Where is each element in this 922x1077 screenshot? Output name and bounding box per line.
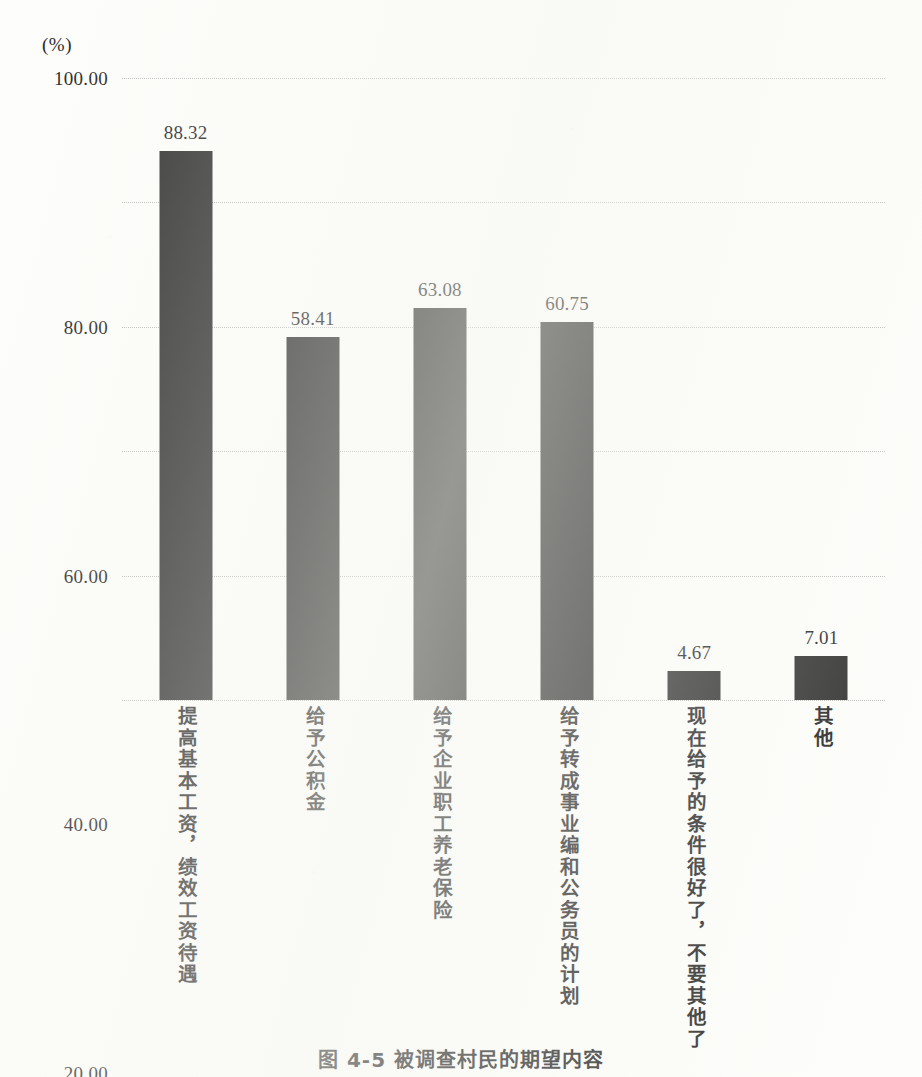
- x-axis-labels: 提高基本工资，绩效工资待遇给予公积金给予企业职工养老保险给予转成事业编和公务员的…: [122, 706, 885, 1036]
- y-axis-tick-label: 100.00: [54, 68, 108, 90]
- bar[interactable]: 88.32: [159, 151, 212, 700]
- x-axis-category-label: 其他: [758, 706, 885, 1036]
- bar-value-label: 63.08: [418, 279, 462, 301]
- bar-value-label: 58.41: [291, 308, 335, 330]
- bar-value-label: 7.01: [804, 627, 838, 649]
- bar-slot: 4.67: [631, 78, 758, 700]
- bar-chart-figure: (%) 100.0080.0060.0040.0020.00088.3258.4…: [0, 0, 922, 1077]
- x-axis-category-text: 给予公积金: [302, 706, 323, 1036]
- gridline: 0: [122, 700, 885, 701]
- bar-slot: 7.01: [758, 78, 885, 700]
- bar-value-label: 4.67: [677, 642, 711, 664]
- x-axis-category-label: 给予企业职工养老保险: [376, 706, 503, 1036]
- x-axis-category-text: 给予转成事业编和公务员的计划: [557, 706, 578, 1036]
- bar[interactable]: 60.75: [541, 322, 594, 700]
- x-axis-category-text: 其他: [811, 706, 832, 1036]
- figure-caption: 图 4-5 被调查村民的期望内容: [0, 1044, 922, 1073]
- bar[interactable]: 7.01: [795, 656, 848, 700]
- y-axis-tick-label: 80.00: [64, 317, 108, 339]
- x-axis-category-label: 给予公积金: [249, 706, 376, 1036]
- y-axis-unit-label: (%): [42, 34, 72, 56]
- bar-value-label: 60.75: [545, 293, 589, 315]
- bar-value-label: 88.32: [164, 122, 208, 144]
- plot-area: 100.0080.0060.0040.0020.00088.3258.4163.…: [122, 78, 885, 700]
- x-axis-category-label: 提高基本工资，绩效工资待遇: [122, 706, 249, 1036]
- bar-slot: 63.08: [376, 78, 503, 700]
- x-axis-category-text: 提高基本工资，绩效工资待遇: [175, 706, 196, 1036]
- x-axis-category-text: 给予企业职工养老保险: [430, 706, 451, 1036]
- y-axis-tick-label: 60.00: [64, 566, 108, 588]
- bar[interactable]: 58.41: [286, 337, 339, 700]
- x-axis-category-text: 现在给予的条件很好了，不要其他了: [684, 706, 705, 1036]
- bar[interactable]: 4.67: [668, 671, 721, 700]
- x-axis-category-label: 现在给予的条件很好了，不要其他了: [631, 706, 758, 1036]
- bar-slot: 60.75: [504, 78, 631, 700]
- bar-slot: 58.41: [249, 78, 376, 700]
- bar[interactable]: 63.08: [413, 308, 466, 700]
- y-axis-tick-label: 40.00: [64, 814, 108, 836]
- x-axis-category-label: 给予转成事业编和公务员的计划: [504, 706, 631, 1036]
- bar-slot: 88.32: [122, 78, 249, 700]
